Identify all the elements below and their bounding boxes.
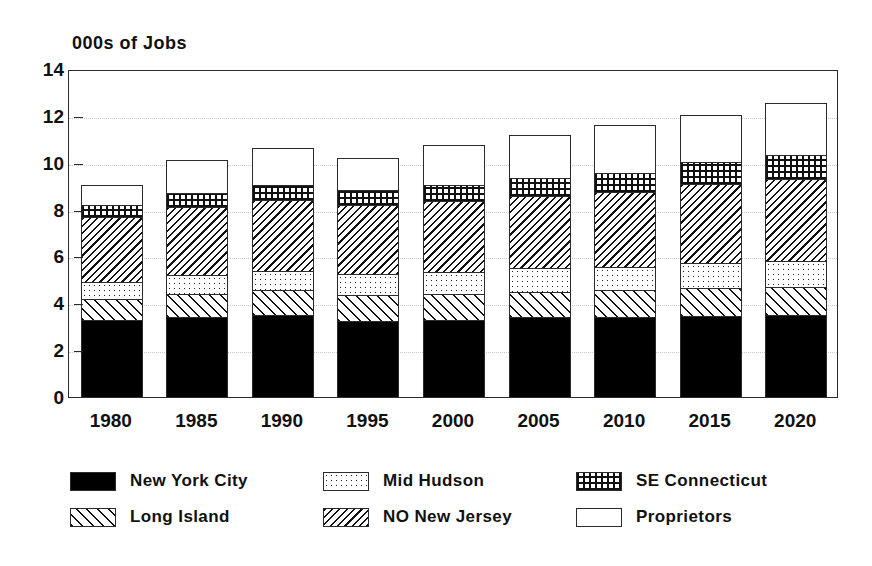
- bar-2015[interactable]: [680, 115, 742, 397]
- y-axis-tick-mark: [74, 257, 83, 258]
- bar-segment[interactable]: [681, 316, 741, 397]
- bar-segment[interactable]: [338, 321, 398, 397]
- bar-2000[interactable]: [423, 145, 485, 397]
- legend-item-proprietors[interactable]: Proprietors: [576, 502, 829, 532]
- y-axis-title: 000s of Jobs: [72, 33, 187, 54]
- bar-segment[interactable]: [253, 290, 313, 315]
- bar-segment[interactable]: [338, 158, 398, 190]
- bar-segment[interactable]: [510, 292, 570, 318]
- bar-segment[interactable]: [167, 207, 227, 275]
- x-axis-tick-label: 2005: [517, 410, 559, 432]
- x-axis-tick-label: 2015: [689, 410, 731, 432]
- x-axis-tick-label: 1985: [175, 410, 217, 432]
- bar-segment[interactable]: [510, 196, 570, 269]
- bar-1990[interactable]: [252, 148, 314, 398]
- bar-2010[interactable]: [594, 125, 656, 397]
- x-axis-tick-label: 1990: [261, 410, 303, 432]
- bar-segment[interactable]: [595, 192, 655, 267]
- bar-segment[interactable]: [82, 282, 142, 298]
- legend-row: New York CityMid HudsonSE Connecticut: [70, 466, 830, 496]
- bar-segment[interactable]: [82, 217, 142, 283]
- bar-segment[interactable]: [167, 160, 227, 193]
- y-axis-tick-mark: [74, 70, 83, 71]
- bar-segment[interactable]: [82, 185, 142, 205]
- bar-segment[interactable]: [167, 275, 227, 294]
- bar-segment[interactable]: [424, 201, 484, 271]
- bar-1980[interactable]: [81, 185, 143, 397]
- bar-1995[interactable]: [337, 158, 399, 397]
- bar-segment[interactable]: [681, 263, 741, 288]
- y-axis-tick-mark: [74, 117, 83, 118]
- x-axis-tick-label: 2020: [774, 410, 816, 432]
- legend-item-mid-hudson[interactable]: Mid Hudson: [323, 466, 576, 496]
- bar-segment[interactable]: [510, 268, 570, 291]
- legend-label: Long Island: [130, 507, 230, 527]
- bar-1985[interactable]: [166, 160, 228, 397]
- bar-segment[interactable]: [253, 315, 313, 397]
- legend-label: NO New Jersey: [383, 507, 512, 527]
- bar-segment[interactable]: [766, 179, 826, 261]
- y-axis-tick-mark: [74, 351, 83, 352]
- bar-segment[interactable]: [82, 320, 142, 397]
- y-axis-tick-label: 0: [24, 387, 64, 409]
- y-axis-tick-label: 2: [24, 340, 64, 362]
- y-axis-tick-mark: [74, 164, 83, 165]
- y-axis-ticks: 02468101214: [12, 0, 64, 566]
- y-axis-tick-label: 14: [24, 59, 64, 81]
- bar-segment[interactable]: [766, 155, 826, 180]
- bar-segment[interactable]: [253, 185, 313, 200]
- bar-segment[interactable]: [595, 267, 655, 290]
- bar-segment[interactable]: [510, 317, 570, 397]
- bar-segment[interactable]: [424, 145, 484, 185]
- bar-segment[interactable]: [338, 295, 398, 321]
- bar-segment[interactable]: [681, 115, 741, 162]
- y-axis-tick-label: 8: [24, 200, 64, 222]
- y-axis-tick-label: 10: [24, 153, 64, 175]
- bar-segment[interactable]: [510, 178, 570, 196]
- bar-segment[interactable]: [253, 271, 313, 291]
- bar-2020[interactable]: [765, 103, 827, 397]
- bar-segment[interactable]: [424, 272, 484, 294]
- bar-segment[interactable]: [253, 148, 313, 185]
- bar-segment[interactable]: [82, 205, 142, 217]
- legend-label: Mid Hudson: [383, 471, 484, 491]
- bar-segment[interactable]: [424, 294, 484, 320]
- legend-item-new-york-city[interactable]: New York City: [70, 466, 323, 496]
- bar-segment[interactable]: [766, 261, 826, 287]
- bar-segment[interactable]: [681, 184, 741, 264]
- legend-item-long-island[interactable]: Long Island: [70, 502, 323, 532]
- x-axis-tick-label: 1995: [346, 410, 388, 432]
- bar-segment[interactable]: [424, 320, 484, 397]
- bar-segment[interactable]: [510, 135, 570, 178]
- x-axis-tick-label: 1980: [90, 410, 132, 432]
- bar-segment[interactable]: [167, 317, 227, 397]
- legend-item-se-connecticut[interactable]: SE Connecticut: [576, 466, 829, 496]
- legend-label: New York City: [130, 471, 248, 491]
- bar-segment[interactable]: [424, 185, 484, 201]
- bar-segment[interactable]: [681, 162, 741, 184]
- y-axis-tick-label: 12: [24, 106, 64, 128]
- bar-segment[interactable]: [595, 125, 655, 173]
- bar-segment[interactable]: [338, 274, 398, 295]
- bar-segment[interactable]: [595, 290, 655, 317]
- legend-row: Long IslandNO New JerseyProprietors: [70, 502, 830, 532]
- bar-segment[interactable]: [338, 205, 398, 274]
- bar-segment[interactable]: [253, 200, 313, 270]
- bar-segment[interactable]: [766, 287, 826, 315]
- bar-segment[interactable]: [595, 173, 655, 192]
- stacked-bar-chart: 000s of Jobs 02468101214 198019851990199…: [0, 0, 872, 566]
- legend-label: SE Connecticut: [636, 471, 767, 491]
- legend-item-no-new-jersey[interactable]: NO New Jersey: [323, 502, 576, 532]
- bar-segment[interactable]: [766, 315, 826, 397]
- bar-segment[interactable]: [82, 299, 142, 320]
- x-axis-tick-label: 2000: [432, 410, 474, 432]
- bar-segment[interactable]: [338, 190, 398, 205]
- bar-segment[interactable]: [681, 288, 741, 316]
- bar-segment[interactable]: [167, 193, 227, 207]
- chart-legend: New York CityMid HudsonSE ConnecticutLon…: [70, 466, 830, 546]
- plot-frame: [68, 70, 838, 398]
- bar-segment[interactable]: [595, 317, 655, 397]
- bar-2005[interactable]: [509, 135, 571, 397]
- bar-segment[interactable]: [167, 294, 227, 317]
- bar-segment[interactable]: [766, 103, 826, 155]
